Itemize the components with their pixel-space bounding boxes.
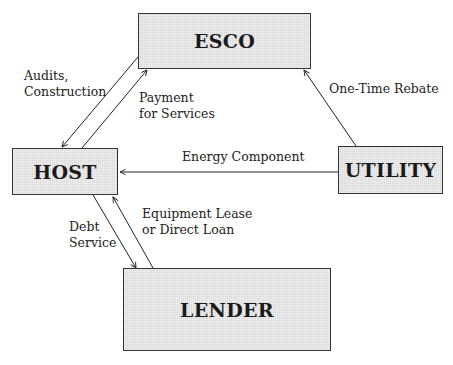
node-lender: LENDER [123, 268, 331, 351]
node-host-label: HOST [33, 161, 97, 183]
edge-label-audits-construction: Audits, Construction [24, 68, 106, 100]
node-host: HOST [12, 148, 118, 195]
edge-label-payment-for-services: Payment for Services [139, 90, 215, 122]
node-esco-label: ESCO [194, 30, 255, 52]
edge-label-debt-service: Debt Service [69, 219, 116, 251]
node-utility-label: UTILITY [345, 159, 437, 181]
node-utility: UTILITY [338, 146, 443, 194]
node-esco: ESCO [138, 13, 311, 69]
edge-label-energy-component: Energy Component [182, 149, 305, 165]
edge-label-one-time-rebate: One-Time Rebate [329, 81, 439, 97]
edge-label-equipment-lease: Equipment Lease or Direct Loan [142, 206, 252, 238]
node-lender-label: LENDER [180, 299, 274, 321]
